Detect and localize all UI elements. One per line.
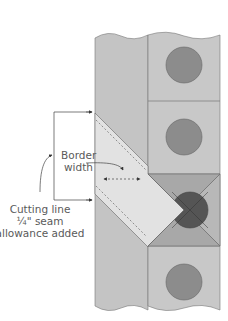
quilt-border-diagram: Border width Cutting line ¼" seam allowa…: [0, 0, 228, 321]
border-width-label-1: Border: [61, 149, 97, 161]
block-2-circle: [166, 119, 202, 155]
cutting-line-leader: [40, 155, 52, 192]
cutting-line-label-2: ¼" seam: [17, 215, 64, 227]
cutting-line-label-1: Cutting line: [10, 203, 71, 215]
block-4-circle: [166, 264, 202, 300]
cutting-line-label-3: allowance added: [0, 227, 84, 239]
border-width-label-2: width: [64, 161, 93, 173]
block-1-circle: [166, 47, 202, 83]
